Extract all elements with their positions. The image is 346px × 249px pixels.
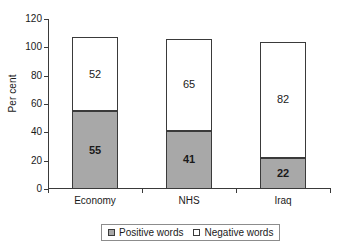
- x-tick-mark-1: [142, 189, 143, 193]
- bar-value-negative-iraq: 82: [277, 94, 289, 105]
- positive-swatch-icon: [108, 229, 115, 236]
- plot-area: 120 100 80 60 40 20 0 52 55 6: [48, 19, 331, 189]
- y-tick-label-80: 80: [8, 71, 42, 81]
- y-tick-label-20: 20: [8, 156, 42, 166]
- bar-segment-positive-economy[interactable]: 55: [72, 111, 118, 189]
- y-axis-title: Per cent: [7, 54, 18, 134]
- bar-value-positive-nhs: 41: [183, 154, 195, 165]
- chart-legend: Positive words Negative words: [101, 224, 280, 241]
- x-tick-mark-3: [330, 189, 331, 193]
- bar-segment-negative-nhs[interactable]: 65: [166, 39, 212, 131]
- x-category-label-iraq: Iraq: [236, 195, 330, 206]
- x-category-label-nhs: NHS: [142, 195, 236, 206]
- bar-segment-negative-economy[interactable]: 52: [72, 37, 118, 111]
- bar-iraq[interactable]: 82 22: [260, 42, 306, 189]
- legend-label-negative-words: Negative words: [204, 227, 273, 238]
- y-tick-mark-100: [44, 47, 48, 48]
- y-tick-mark-120: [44, 19, 48, 20]
- bar-value-positive-iraq: 22: [277, 168, 289, 179]
- legend-item-positive-words[interactable]: Positive words: [108, 227, 183, 238]
- x-tick-mark-2: [236, 189, 237, 193]
- y-tick-mark-20: [44, 161, 48, 162]
- x-tick-mark-0: [48, 189, 49, 193]
- bar-value-positive-economy: 55: [89, 145, 101, 156]
- bar-value-negative-nhs: 65: [183, 79, 195, 90]
- bar-value-negative-economy: 52: [89, 69, 101, 80]
- bar-segment-positive-iraq[interactable]: 22: [260, 158, 306, 189]
- y-tick-label-60: 60: [8, 99, 42, 109]
- y-tick-label-100: 100: [8, 42, 42, 52]
- legend-item-negative-words[interactable]: Negative words: [193, 227, 273, 238]
- legend-label-positive-words: Positive words: [119, 227, 183, 238]
- negative-swatch-icon: [193, 229, 200, 236]
- x-category-label-economy: Economy: [48, 195, 142, 206]
- y-tick-mark-40: [44, 132, 48, 133]
- y-tick-label-40: 40: [8, 127, 42, 137]
- bar-economy[interactable]: 52 55: [72, 37, 118, 189]
- y-tick-mark-60: [44, 104, 48, 105]
- bar-segment-negative-iraq[interactable]: 82: [260, 42, 306, 158]
- y-axis-line: [48, 19, 49, 189]
- y-tick-mark-80: [44, 76, 48, 77]
- y-tick-label-0: 0: [8, 184, 42, 194]
- bar-nhs[interactable]: 65 41: [166, 39, 212, 189]
- bar-segment-positive-nhs[interactable]: 41: [166, 131, 212, 189]
- y-tick-label-120: 120: [8, 14, 42, 24]
- stacked-bar-chart: Per cent 120 100 80 60 40 20 0 52 55: [0, 0, 346, 249]
